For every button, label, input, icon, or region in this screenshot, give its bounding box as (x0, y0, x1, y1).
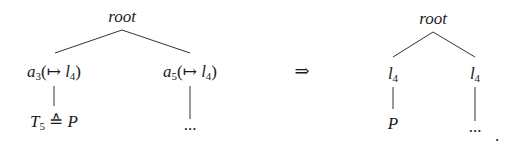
right-edge-root-l4a (393, 32, 433, 57)
right-root-node: root (419, 10, 447, 27)
paren: ) (211, 62, 217, 81)
left-leaf-t5-equals-p: T5 ≙ P (30, 113, 78, 130)
implies-arrow-icon: ⇒ (294, 63, 309, 80)
var: a (27, 62, 36, 81)
var: a (163, 62, 172, 81)
trailing-period: . (495, 127, 499, 144)
left-leaf-ellipsis: ... (184, 116, 197, 133)
right-leaf-ellipsis: ... (469, 118, 482, 135)
left-node-a5: a5(↦ l4) (163, 63, 217, 80)
left-root-node: root (108, 8, 136, 25)
corresponds-icon: ≙ (45, 112, 68, 131)
right-leaf-p: P (388, 115, 398, 132)
maps-to: (↦ (41, 62, 65, 81)
left-edge-root-a3 (55, 30, 122, 53)
maps-to: (↦ (177, 62, 201, 81)
right-edge-root-l4b (433, 32, 475, 57)
right-node-l4-second: l4 (470, 65, 480, 82)
left-edge-root-a5 (122, 30, 190, 53)
paren: ) (75, 62, 81, 81)
right-node-l4-first: l4 (388, 65, 398, 82)
subscript: 4 (393, 72, 399, 84)
subscript: 4 (475, 72, 481, 84)
left-node-a3: a3(↦ l4) (27, 63, 81, 80)
var: P (68, 112, 78, 131)
